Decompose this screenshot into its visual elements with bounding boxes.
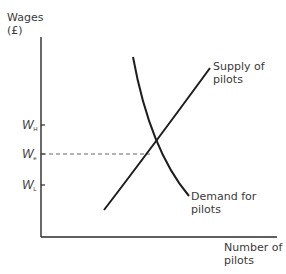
y-axis-label-line1: Wages xyxy=(7,11,43,24)
y-axis-label-line2: (£) xyxy=(7,24,43,37)
supply-curve-label: Supply of pilots xyxy=(213,60,265,86)
demand-curve-label: Demand for pilots xyxy=(191,190,256,216)
demand-curve xyxy=(133,57,189,196)
supply-curve xyxy=(104,68,210,210)
y-axis-label: Wages (£) xyxy=(7,11,43,37)
x-axis-label: Number of pilots xyxy=(224,241,282,267)
tick-label-wl: WL xyxy=(22,178,37,196)
chart-canvas xyxy=(0,0,286,274)
supply-demand-chart: Wages (£) WH We WL Supply of pilots Dema… xyxy=(0,0,286,274)
tick-label-we: We xyxy=(22,147,37,165)
tick-label-wh: WH xyxy=(22,118,38,136)
